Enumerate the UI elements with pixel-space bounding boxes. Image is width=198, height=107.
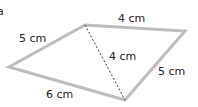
label-right-edge: 5 cm [158, 66, 185, 77]
label-top-edge: 4 cm [118, 13, 145, 24]
part-label: a [0, 6, 4, 17]
label-bottom-edge: 6 cm [46, 89, 73, 100]
quadrilateral-figure [0, 0, 198, 107]
label-left-edge: 5 cm [19, 33, 46, 44]
label-diagonal: 4 cm [109, 51, 136, 62]
